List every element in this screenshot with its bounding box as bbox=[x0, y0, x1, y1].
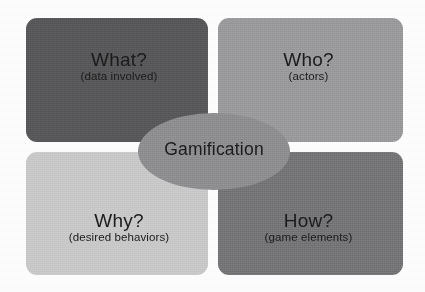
quadrant-subtitle-what: (data involved) bbox=[81, 71, 158, 83]
quadrant-text-block-who: Who? (actors) bbox=[283, 50, 333, 83]
quadrant-subtitle-who: (actors) bbox=[283, 71, 333, 83]
quadrant-title-what: What? bbox=[81, 50, 158, 69]
gamification-quadrant-diagram: What? (data involved) Who? (actors) Why?… bbox=[0, 0, 425, 292]
quadrant-title-who: Who? bbox=[283, 50, 333, 69]
quadrant-text-block-what: What? (data involved) bbox=[81, 50, 158, 83]
quadrant-subtitle-how: (game elements) bbox=[265, 232, 353, 244]
quadrant-text-block-how: How? (game elements) bbox=[265, 211, 353, 244]
center-hub-label: Gamification bbox=[164, 139, 264, 160]
quadrant-subtitle-why: (desired behaviors) bbox=[69, 232, 169, 244]
quadrant-title-why: Why? bbox=[69, 211, 169, 230]
quadrant-title-how: How? bbox=[265, 211, 353, 230]
center-hub-ellipse: Gamification bbox=[138, 113, 290, 190]
quadrant-text-block-why: Why? (desired behaviors) bbox=[69, 211, 169, 244]
